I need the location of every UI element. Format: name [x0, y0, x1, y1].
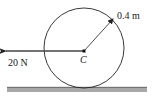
center-point	[83, 50, 86, 53]
wheel-force-diagram: 20 N 0.4 m C	[0, 0, 152, 101]
radius-arrow	[84, 19, 113, 51]
radius-label: 0.4 m	[117, 10, 140, 21]
force-label: 20 N	[8, 57, 28, 68]
center-label: C	[80, 54, 87, 65]
